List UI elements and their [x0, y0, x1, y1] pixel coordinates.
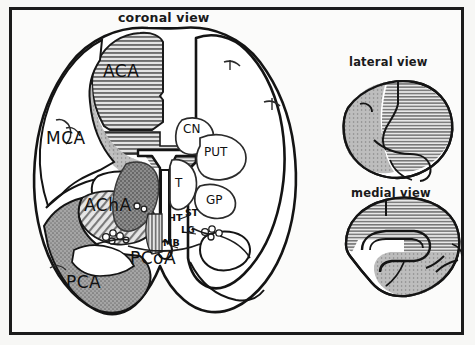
label-mca: MCA	[46, 128, 86, 148]
coronal-view-title: coronal view	[118, 10, 210, 25]
label-gp: GP	[206, 193, 223, 207]
label-put: PUT	[204, 145, 227, 159]
label-cn: CN	[183, 122, 200, 136]
label-pcoa: PCoA	[130, 248, 176, 268]
figure-root: coronal view lateral view medial view AC…	[0, 0, 475, 345]
lateral-view-title: lateral view	[349, 55, 428, 69]
label-acha: AChA	[84, 195, 132, 215]
label-mb: MB	[163, 237, 180, 248]
lateral-view-panel	[343, 81, 452, 181]
medial-view-title: medial view	[351, 186, 431, 200]
label-ht: HT	[168, 212, 182, 223]
anatomy-illustration	[0, 0, 475, 345]
label-st: ST	[185, 207, 198, 218]
medial-pca-territory	[374, 252, 457, 296]
medial-view-panel	[346, 198, 462, 296]
label-aca: ACA	[103, 61, 139, 81]
label-t: T	[175, 176, 182, 190]
label-lg: LG	[181, 224, 195, 235]
label-pca: PCA	[66, 272, 101, 292]
